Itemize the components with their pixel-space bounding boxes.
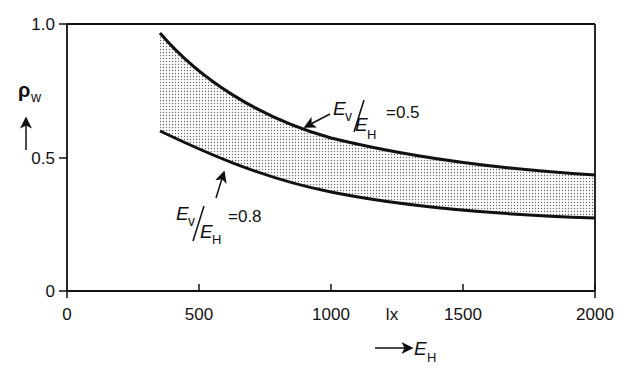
y-tick-1: 1.0	[31, 15, 55, 34]
x-tick-500: 500	[185, 305, 213, 324]
annotation-arrow-icon	[305, 114, 330, 127]
annotation-arrow-icon	[216, 172, 224, 198]
svg-text:H: H	[367, 127, 376, 142]
annotation-lower: E v E H =0.8	[176, 172, 262, 247]
svg-text:=0.5: =0.5	[386, 103, 420, 122]
y-ticks	[59, 24, 67, 291]
svg-text:w: w	[30, 89, 42, 105]
svg-text:ρ: ρ	[18, 79, 30, 101]
svg-text:E: E	[414, 338, 427, 359]
x-axis-label: E H	[375, 338, 436, 365]
x-tick-1000: 1000	[312, 305, 350, 324]
chart: 1.0 0.5 0 0 500 1000 lx 1500 2000 ρ w E …	[0, 0, 640, 379]
svg-text:v: v	[345, 108, 352, 124]
y-axis-label: ρ w	[18, 79, 42, 150]
svg-text:H: H	[212, 232, 221, 247]
x-tick-0: 0	[62, 305, 71, 324]
y-tick-05: 0.5	[31, 149, 55, 168]
svg-text:=0.8: =0.8	[228, 207, 262, 226]
x-tick-1500: 1500	[444, 305, 482, 324]
x-tick-2000: 2000	[576, 305, 614, 324]
x-unit: lx	[386, 305, 399, 324]
shaded-band	[160, 33, 595, 218]
y-tick-0: 0	[46, 282, 55, 301]
svg-text:H: H	[427, 350, 436, 365]
svg-text:v: v	[188, 213, 195, 229]
